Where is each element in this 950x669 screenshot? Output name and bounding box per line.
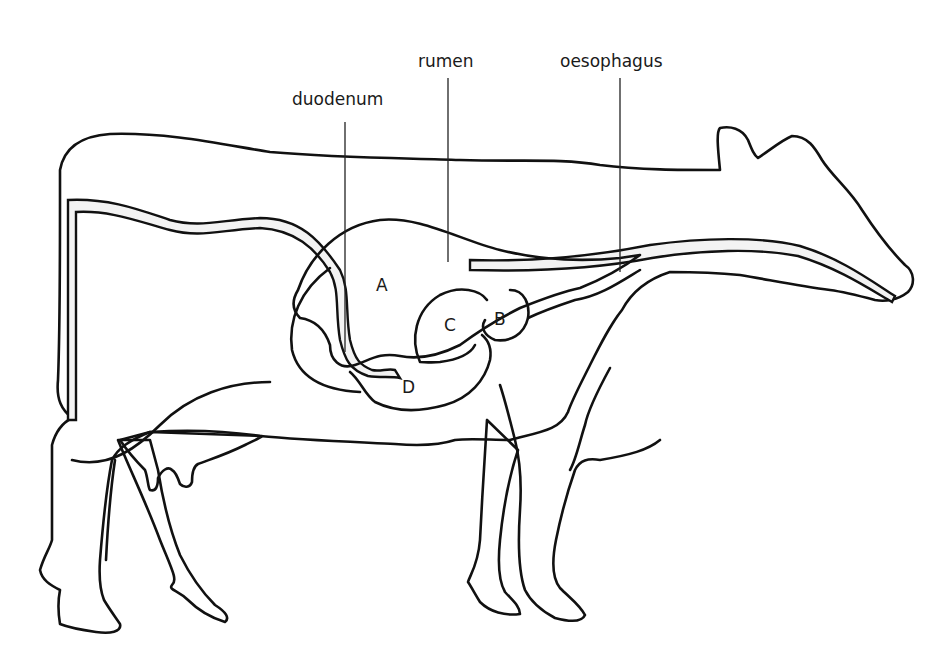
front-leg-contour bbox=[570, 368, 610, 470]
cow-silhouette bbox=[40, 127, 913, 632]
oesophagus-neck bbox=[470, 239, 895, 302]
rumen-label: rumen bbox=[418, 51, 474, 71]
cow-digestive-diagram: duodenum rumen oesophagus A B C D bbox=[0, 0, 950, 669]
compartment-a-label: A bbox=[376, 275, 388, 295]
compartment-b-label: B bbox=[494, 309, 506, 329]
duodenum-label: duodenum bbox=[292, 89, 383, 109]
compartment-c-label: C bbox=[444, 315, 456, 335]
near-front-leg bbox=[500, 385, 660, 621]
digestive-tract bbox=[68, 200, 895, 420]
far-front-leg bbox=[468, 420, 520, 615]
far-hind-leg bbox=[118, 440, 227, 622]
compartment-d-label: D bbox=[402, 377, 415, 397]
oesophagus-label: oesophagus bbox=[560, 51, 663, 71]
hind-leg-contour bbox=[72, 382, 270, 462]
tract-connector bbox=[528, 270, 640, 318]
